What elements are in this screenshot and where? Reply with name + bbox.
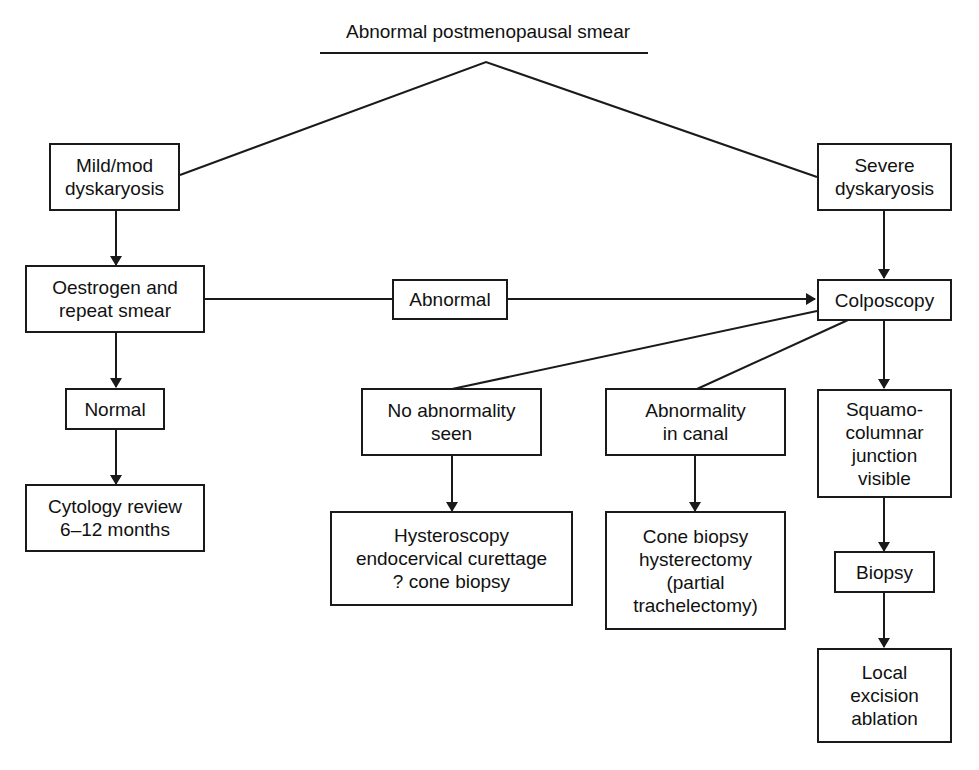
node-squamo-columnar-junction: Squamo- columnar junction visible xyxy=(817,389,952,498)
node-mild-mod-dyskaryosis: Mild/mod dyskaryosis xyxy=(49,143,180,211)
node-biopsy: Biopsy xyxy=(834,551,935,593)
edge-title-branches xyxy=(180,62,817,177)
diagram-title: Abnormal postmenopausal smear xyxy=(318,20,658,44)
node-normal: Normal xyxy=(65,388,165,430)
node-oestrogen-repeat-smear: Oestrogen and repeat smear xyxy=(25,265,205,333)
node-severe-dyskaryosis: Severe dyskaryosis xyxy=(817,143,952,211)
node-cone-biopsy: Cone biopsy hysterectomy (partial trache… xyxy=(605,511,786,630)
node-abnormal: Abnormal xyxy=(392,279,508,320)
flowchart: Abnormal postmenopausal smear Mild/mod d… xyxy=(0,0,979,770)
edge-colposcopy-noabnormality xyxy=(452,311,817,389)
node-hysteroscopy: Hysteroscopy endocervical curettage ? co… xyxy=(330,511,573,606)
node-abnormality-in-canal: Abnormality in canal xyxy=(605,388,786,456)
node-local-excision-ablation: Local excision ablation xyxy=(817,648,952,743)
node-colposcopy: Colposcopy xyxy=(817,279,952,321)
node-cytology-review: Cytology review 6–12 months xyxy=(25,484,205,552)
edge-colposcopy-canal xyxy=(697,320,848,389)
node-no-abnormality-seen: No abnormality seen xyxy=(361,388,542,456)
